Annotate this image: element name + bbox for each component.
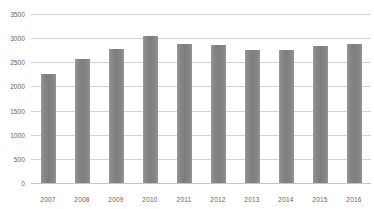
bar[interactable] [347,44,362,183]
x-axis-tick-label: 2012 [210,196,225,203]
x-axis-label-slot: 2008 [65,188,99,206]
bar-slot [133,14,167,183]
y-axis-tick-label: 2500 [0,59,25,66]
x-axis-label-slot: 2013 [235,188,269,206]
plot-area: 0500100015002000250030003500 [31,14,371,183]
x-axis-tick-label: 2011 [177,196,192,203]
x-axis-tick-label: 2014 [278,196,293,203]
y-axis-tick-label: 1000 [0,131,25,138]
bar-slot [99,14,133,183]
x-axis-tick-label: 2007 [40,196,55,203]
x-axis-label-slot: 2014 [269,188,303,206]
bar-slot [65,14,99,183]
x-axis-tick-label: 2015 [312,196,327,203]
bar-series [31,14,371,183]
bar[interactable] [313,46,328,183]
bar[interactable] [211,45,226,183]
x-axis-tick-label: 2009 [108,196,123,203]
bar-slot [167,14,201,183]
x-axis-label-slot: 2012 [201,188,235,206]
axis-baseline [31,183,371,184]
y-axis-tick-label: 3500 [0,11,25,18]
y-axis-tick-label: 500 [0,155,25,162]
x-axis-tick-label: 2013 [244,196,259,203]
bar-slot [31,14,65,183]
bar[interactable] [41,74,56,183]
x-axis-label-slot: 2016 [337,188,371,206]
y-axis-tick-label: 0 [0,180,25,187]
bar-slot [235,14,269,183]
y-axis-tick-label: 2000 [0,83,25,90]
x-axis-label-slot: 2010 [133,188,167,206]
y-axis-tick-label: 1500 [0,107,25,114]
bar-chart: 0500100015002000250030003500 20072008200… [0,0,374,209]
bar-slot [337,14,371,183]
bar[interactable] [177,44,192,183]
bar[interactable] [279,50,294,183]
bar[interactable] [245,50,260,183]
x-axis-label-slot: 2009 [99,188,133,206]
x-axis-tick-label: 2016 [346,196,361,203]
bar[interactable] [143,36,158,183]
y-axis-tick-label: 3000 [0,35,25,42]
x-axis-label-slot: 2015 [303,188,337,206]
bar-slot [269,14,303,183]
bar-slot [201,14,235,183]
x-axis-label-slot: 2011 [167,188,201,206]
x-axis-label-slot: 2007 [31,188,65,206]
bar[interactable] [75,59,90,183]
bar-slot [303,14,337,183]
x-axis-labels: 2007200820092010201120122013201420152016 [31,188,371,206]
bar[interactable] [109,49,124,183]
x-axis-tick-label: 2008 [74,196,89,203]
x-axis-tick-label: 2010 [142,196,157,203]
